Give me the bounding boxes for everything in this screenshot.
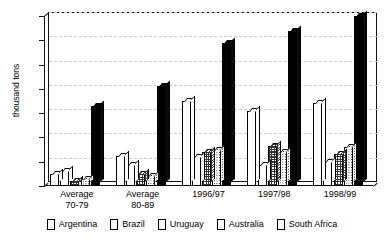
- bar-side-face: [135, 159, 139, 182]
- bar-side-face: [332, 156, 336, 182]
- y-axis-tick: [39, 65, 45, 66]
- y-axis-tick: [39, 16, 45, 17]
- gridline: [49, 36, 377, 37]
- legend-item-south-africa[interactable]: South Africa: [277, 219, 338, 230]
- bar-argentina: [116, 156, 125, 186]
- bar-side-face: [211, 147, 215, 182]
- y-axis-title: thousand tons: [12, 46, 21, 136]
- bar-australia: [81, 179, 90, 186]
- bar-argentina: [313, 103, 322, 186]
- bar-side-face: [353, 142, 357, 182]
- gridline: [49, 61, 377, 62]
- y-axis-tick: [39, 186, 45, 187]
- bar-argentina: [182, 101, 191, 186]
- legend-label: Australia: [229, 219, 264, 230]
- legend-item-uruguay[interactable]: Uruguay: [158, 219, 204, 230]
- bar-side-face: [166, 81, 170, 182]
- bar-side-face: [100, 101, 104, 182]
- bar-side-face: [343, 149, 347, 182]
- legend-swatch-icon: [47, 219, 55, 230]
- y-axis-tick: [39, 113, 45, 114]
- chart-legend: ArgentinaBrazilUruguayAustraliaSouth Afr…: [0, 219, 384, 237]
- bar-side-face: [363, 11, 367, 182]
- bar-side-face: [231, 37, 235, 182]
- legend-item-australia[interactable]: Australia: [217, 219, 264, 230]
- plot-area: [44, 12, 377, 186]
- bar-uruguay: [70, 181, 79, 186]
- y-axis-tick: [39, 137, 45, 138]
- legend-swatch-icon: [158, 219, 166, 230]
- gridline: [49, 12, 377, 13]
- bar-argentina: [247, 111, 256, 186]
- bar-side-face: [287, 147, 291, 182]
- legend-swatch-icon: [217, 219, 225, 230]
- bar-side-face: [201, 152, 205, 182]
- y-axis-tick: [39, 162, 45, 163]
- bar-side-face: [125, 150, 129, 182]
- y-axis-tick: [39, 40, 45, 41]
- chart-root: thousand tons 0100200300400500600700 Ave…: [0, 0, 384, 244]
- legend-item-argentina[interactable]: Argentina: [47, 219, 98, 230]
- bar-argentina: [50, 174, 59, 186]
- bar-side-face: [297, 25, 301, 182]
- bar-side-face: [267, 160, 271, 182]
- legend-label: Brazil: [122, 219, 145, 230]
- legend-label: Argentina: [59, 219, 98, 230]
- legend-swatch-icon: [110, 219, 118, 230]
- bar-side-face: [322, 98, 326, 182]
- legend-item-brazil[interactable]: Brazil: [110, 219, 145, 230]
- bar-side-face: [221, 144, 225, 182]
- x-axis-label: 1998/99: [301, 189, 379, 200]
- gridline: [49, 85, 377, 86]
- legend-swatch-icon: [277, 219, 285, 230]
- bar-side-face: [191, 96, 195, 182]
- bar-side-face: [277, 141, 281, 182]
- legend-label: South Africa: [289, 219, 338, 230]
- plot-depth-edge-right: [373, 183, 378, 187]
- legend-label: Uruguay: [170, 219, 204, 230]
- y-axis-tick: [39, 89, 45, 90]
- bar-side-face: [256, 105, 260, 182]
